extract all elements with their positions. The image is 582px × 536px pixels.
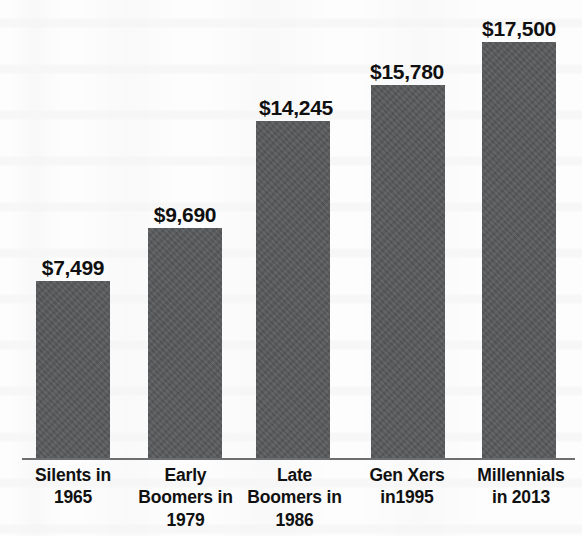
bar-value-label: $15,780 (352, 60, 462, 84)
category-label-line: in 2013 (462, 486, 580, 508)
category-label-line: Boomers in (128, 486, 243, 508)
category-label-line: Early (128, 464, 243, 486)
bar-value-label: $9,690 (133, 203, 237, 227)
category-label-line: Boomers in (238, 486, 351, 508)
category-axis-line (22, 458, 575, 460)
plot-area: $7,499 $9,690 $14,245 $15,780 $17,500 Si… (0, 0, 582, 536)
bar-value-label: $17,500 (464, 17, 574, 41)
category-label-line: 1986 (238, 509, 351, 531)
bar-value-label: $14,245 (241, 96, 351, 120)
category-label-line: in1995 (352, 486, 462, 508)
category-label-line: Late (238, 464, 351, 486)
category-label-line: Silents in (18, 464, 128, 486)
bar-silents-1965 (36, 281, 110, 458)
category-label-millennials: Millennials in 2013 (462, 464, 580, 509)
category-label-early-boomers: Early Boomers in 1979 (128, 464, 243, 531)
bar-value-label: $7,499 (21, 256, 125, 280)
category-label-silents: Silents in 1965 (18, 464, 128, 509)
category-label-line: Gen Xers (352, 464, 462, 486)
bar-millennials-2013 (482, 42, 556, 458)
category-label-line: 1979 (128, 509, 243, 531)
category-label-late-boomers: Late Boomers in 1986 (238, 464, 351, 531)
category-label-gen-xers: Gen Xers in1995 (352, 464, 462, 509)
bar-chart: $7,499 $9,690 $14,245 $15,780 $17,500 Si… (0, 0, 582, 536)
bar-gen-xers-1995 (371, 85, 445, 458)
bar-early-boomers-1979 (148, 228, 222, 458)
category-label-line: 1965 (18, 486, 128, 508)
bar-late-boomers-1986 (256, 121, 330, 458)
category-label-line: Millennials (462, 464, 580, 486)
